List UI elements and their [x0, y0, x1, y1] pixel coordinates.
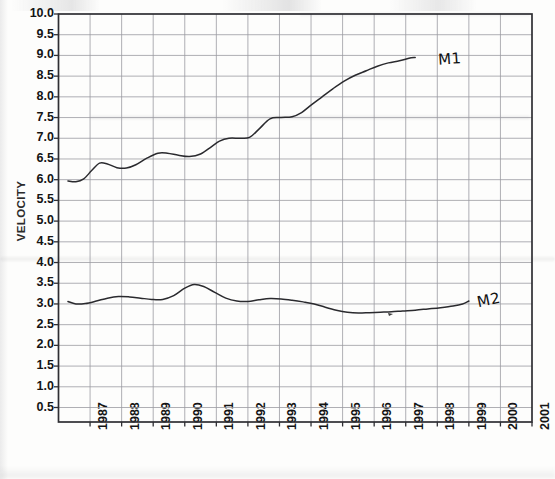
- axis-frame: [59, 14, 533, 422]
- stray-pen-mark: [388, 313, 393, 316]
- m1-label: M1: [437, 49, 462, 69]
- plot-area: [0, 0, 555, 479]
- gridlines: [59, 14, 533, 422]
- chart-figure: VELOCITY 10.09.59.08.58.07.57.06.56.05.5…: [0, 0, 555, 479]
- data-series: [68, 57, 469, 313]
- pen-marks: [388, 313, 393, 316]
